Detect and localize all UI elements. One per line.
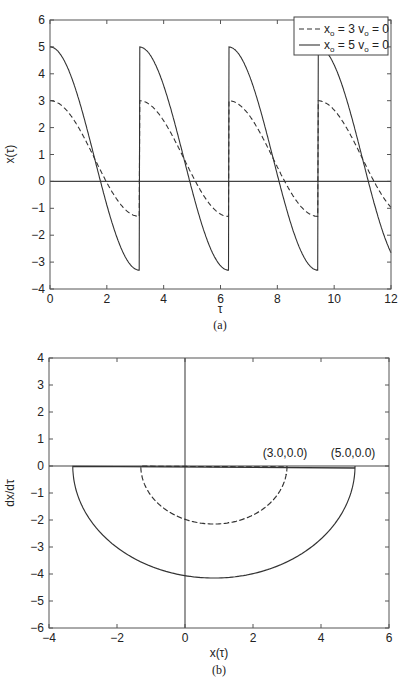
panel-b-y-axis-label: dx/dτ [3,479,17,507]
x-tick-label: 4 [318,631,325,645]
x-tick-label: 12 [384,292,398,306]
y-tick-label: −3 [31,255,45,269]
y-tick-label: 0 [37,459,44,473]
y-tick-label: 1 [37,432,44,446]
y-tick-label: −1 [30,486,44,500]
annotation-start-3: (3.0,0.0) [263,446,308,460]
panel-b-ticks: −4−20246−6−5−4−3−2−101234 [30,351,392,645]
y-tick-label: 5 [38,40,45,54]
x-tick-label: 10 [327,292,341,306]
panel-b-x-axis-label: x(τ) [210,646,229,660]
panel-a-curve-x0-5 [50,47,391,270]
y-tick-label: −5 [30,594,44,608]
panel-a-ticks: 024681012−4−3−2−10123456 [31,13,398,306]
y-tick-label: −1 [31,201,45,215]
panel-b-plot-frame [49,358,389,628]
annotation-start-5: (5.0,0.0) [331,446,376,460]
x-tick-label: 2 [103,292,110,306]
y-tick-label: 1 [38,148,45,162]
y-tick-label: 4 [38,67,45,81]
y-tick-label: −4 [30,567,44,581]
panel-a-plot-frame [50,20,391,289]
x-tick-label: 0 [47,292,54,306]
panel-a-curve-x0-3 [50,101,391,217]
x-tick-label: −4 [42,631,56,645]
x-tick-label: 8 [274,292,281,306]
legend-entry-x0-5: xo = 5 vo = 0 [324,38,389,54]
y-tick-label: −2 [31,228,45,242]
y-tick-label: 3 [38,94,45,108]
panel-b-trajectory-x0-5 [73,466,355,578]
panel-b-phase-plane: −4−20246−6−5−4−3−2−101234 (3.0,0.0) (5.0… [3,351,393,677]
y-tick-label: 3 [37,378,44,392]
y-tick-label: −3 [30,540,44,554]
x-tick-label: 0 [182,631,189,645]
x-tick-label: −2 [110,631,124,645]
panel-b-trajectory-x0-3 [141,466,287,524]
panel-a-y-axis-label: x(τ) [3,145,17,164]
y-tick-label: 2 [38,121,45,135]
y-tick-label: 0 [38,174,45,188]
panel-a-caption: (a) [213,318,226,332]
y-tick-label: −4 [31,282,45,296]
panel-b-caption: (b) [212,663,226,677]
figure: 024681012−4−3−2−10123456 xo = 3 vo = 0 x… [0,0,407,689]
panel-a-x-axis-label: τ [218,302,223,316]
y-tick-label: −6 [30,621,44,635]
x-tick-label: 4 [160,292,167,306]
panel-a-legend: xo = 3 vo = 0 xo = 5 vo = 0 [294,17,389,55]
y-tick-label: 2 [37,405,44,419]
legend-entry-x0-3: xo = 3 vo = 0 [324,22,389,38]
x-tick-label: 2 [250,631,257,645]
x-tick-label: 6 [386,631,393,645]
y-tick-label: −2 [30,513,44,527]
panel-a-time-response: 024681012−4−3−2−10123456 xo = 3 vo = 0 x… [3,13,398,332]
y-tick-label: 6 [38,13,45,27]
y-tick-label: 4 [37,351,44,365]
